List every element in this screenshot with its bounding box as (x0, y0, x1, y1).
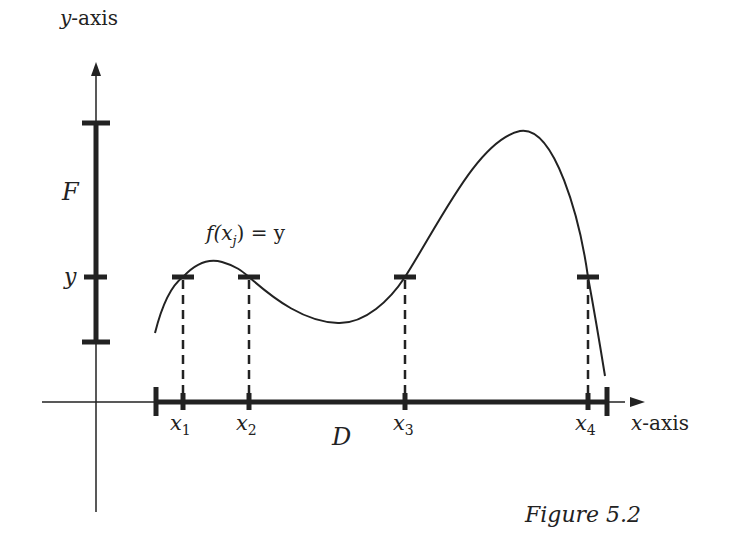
codomain-label-F: F (61, 178, 80, 206)
figure-caption: Figure 5.2 (524, 502, 641, 527)
level-label-y: y (63, 264, 77, 289)
y-axis-arrow-icon (91, 62, 101, 76)
domain-label-D: D (331, 423, 351, 451)
x4-label: x4 (575, 411, 596, 438)
function-curve (155, 131, 605, 376)
x-axis-label: x-axis (631, 411, 689, 435)
y-axis-label: y-axis (59, 6, 118, 30)
x1-label: x1 (170, 411, 191, 438)
equation-label: f(xj) = y (204, 221, 286, 248)
x2-label: x2 (236, 411, 257, 438)
function-preimage-diagram: y-axis F y f(xj) = y x1 x2 x3 x4 D x-axi… (0, 0, 730, 551)
x3-label: x3 (393, 411, 414, 438)
x-axis-arrow-icon (630, 397, 645, 407)
